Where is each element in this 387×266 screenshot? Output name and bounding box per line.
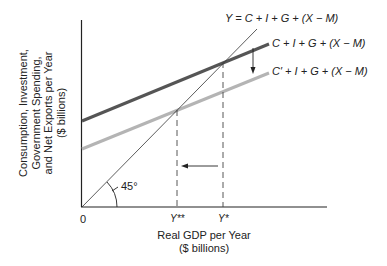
angle-tick [112, 187, 118, 191]
label-origin: 0 [80, 214, 86, 225]
label-lower-line: C′ + I + G + (X − M) [272, 66, 368, 77]
label-upper-line: C + I + G + (X − M) [272, 38, 366, 49]
y-axis-title-line2: Government Spending, [30, 49, 43, 177]
45-degree-line [82, 29, 257, 207]
y-axis-title-line1: Consumption, Investment, [17, 49, 30, 177]
label-y-star: Y* [218, 214, 229, 224]
x-axis-title-line1: Real GDP per Year [157, 229, 250, 242]
x-axis-title-line2: ($ billions) [157, 242, 250, 255]
label-45-degrees: 45° [121, 181, 138, 192]
left-arrow-icon [181, 164, 218, 169]
x-axis-title: Real GDP per Year ($ billions) [157, 229, 250, 255]
label-45-line: Y = C + I + G + (X − M) [225, 13, 338, 24]
y-axis-title-line3: and Net Exports per Year [42, 49, 55, 177]
y-axis-title-line4: ($ billions) [55, 49, 68, 177]
angle-arc [107, 182, 117, 207]
label-y-double-star: Y** [170, 214, 184, 224]
